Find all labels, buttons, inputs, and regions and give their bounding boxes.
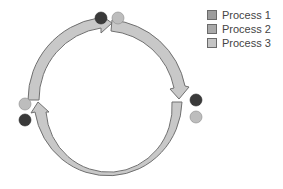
light-dot [190,111,202,123]
legend-label: Process 2 [222,22,271,36]
arrow-left-to-top [28,14,112,100]
legend-item-process-1: Process 1 [207,8,271,22]
legend-item-process-3: Process 3 [207,36,271,50]
dark-dot [19,114,31,126]
dark-dot [95,12,107,24]
dot-pair-left [19,98,31,126]
legend-swatch-icon [207,38,217,48]
legend-label: Process 3 [222,36,271,50]
dark-dot [190,94,202,106]
legend-swatch-icon [207,24,217,34]
legend-label: Process 1 [222,8,271,22]
legend-swatch-icon [207,10,217,20]
legend: Process 1 Process 2 Process 3 [207,8,271,50]
arrow-top-to-right [111,20,189,99]
light-dot [19,98,31,110]
legend-item-process-2: Process 2 [207,22,271,36]
dot-pair-right [190,94,202,123]
light-dot [112,12,124,24]
arrow-right-to-left-bottom [31,102,182,176]
